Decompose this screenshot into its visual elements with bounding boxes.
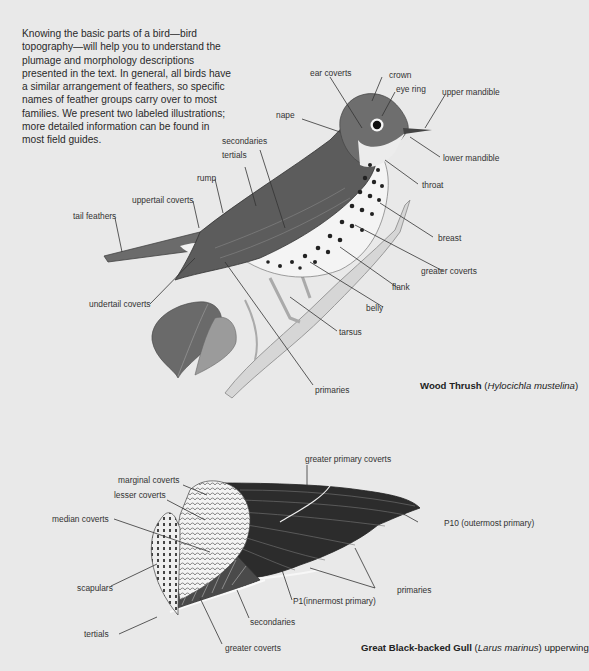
label-p1: P1(innermost primary) <box>293 596 376 606</box>
gull-caption: Great Black-backed Gull (Larus marinus) … <box>361 642 589 653</box>
thrush-common-name: Wood Thrush <box>420 380 482 391</box>
label-uppertail-coverts: uppertail coverts <box>132 195 193 205</box>
label-gull-greater-coverts: greater coverts <box>225 643 281 653</box>
label-lower-mandible: lower mandible <box>443 153 499 163</box>
label-crown: crown <box>389 70 411 80</box>
wood-thrush-illustration <box>104 77 445 398</box>
label-tertials: tertials <box>222 150 247 160</box>
bill <box>403 128 432 134</box>
label-marginal-coverts: marginal coverts <box>118 475 179 485</box>
label-ear-coverts: ear coverts <box>310 68 351 78</box>
label-secondaries: secondaries <box>222 136 267 146</box>
label-greater-primary-coverts: greater primary coverts <box>305 454 391 464</box>
label-flank: flank <box>392 282 410 292</box>
label-tail-feathers: tail feathers <box>73 211 116 221</box>
gull-scientific-name: Larus marinus <box>478 642 539 653</box>
label-eye-ring: eye ring <box>396 84 426 94</box>
label-gull-primaries: primaries <box>397 585 431 595</box>
label-median-coverts: median coverts <box>52 514 109 524</box>
label-tarsus: tarsus <box>339 327 362 337</box>
label-belly: belly <box>366 303 383 313</box>
scapulars-tertials <box>151 513 180 615</box>
label-primaries: primaries <box>315 385 349 395</box>
label-upper-mandible: upper mandible <box>442 87 500 97</box>
thrush-caption: Wood Thrush (Hylocichla mustelina) <box>420 380 578 391</box>
label-undertail-coverts: undertail coverts <box>89 299 150 309</box>
label-lesser-coverts: lesser coverts <box>114 490 166 500</box>
label-scapulars: scapulars <box>77 583 113 593</box>
thrush-scientific-name: Hylocichla mustelina <box>488 380 575 391</box>
eye <box>373 121 381 129</box>
twig <box>245 300 257 360</box>
label-nape: nape <box>276 110 295 120</box>
label-breast: breast <box>438 233 461 243</box>
label-greater-coverts: greater coverts <box>421 266 477 276</box>
label-throat: throat <box>422 180 443 190</box>
label-gull-secondaries: secondaries <box>250 617 295 627</box>
label-gull-tertials: tertials <box>84 629 109 639</box>
gull-caption-suffix: upperwing <box>542 642 589 653</box>
label-p10: P10 (outermost primary) <box>444 518 534 528</box>
leg <box>270 278 300 322</box>
label-rump: rump <box>197 173 216 183</box>
gull-common-name: Great Black-backed Gull <box>361 642 472 653</box>
